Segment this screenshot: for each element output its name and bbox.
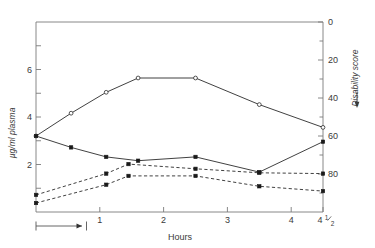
left-axis-title-group: µg/ml plasma (7, 107, 17, 158)
right-tick-label-0: 0 (328, 17, 333, 27)
x-tick-label-1: 1 (97, 215, 102, 225)
right-tick-label-60: 60 (328, 131, 338, 141)
x-tick-label-4half-whole: 4 (317, 215, 322, 225)
chart-background (0, 0, 375, 248)
x-tick-label-4half-numerator: 1 (325, 214, 329, 221)
right-axis-title-group: Disability score (350, 49, 360, 108)
left-axis-title: µg/ml plasma (7, 107, 17, 158)
left-tick-label-4: 4 (27, 112, 32, 122)
x-axis-title-group: Hours (168, 232, 193, 242)
right-tick-label-40: 40 (328, 93, 338, 103)
right-axis-title: Disability score (350, 49, 360, 106)
plasma-disability-chart: 2 4 6 µg/ml plasma 0 20 40 60 80 Disabil… (0, 0, 375, 248)
left-tick-label-6: 6 (27, 65, 32, 75)
x-axis-title: Hours (168, 232, 193, 242)
x-tick-label-3: 3 (225, 215, 230, 225)
right-tick-label-20: 20 (328, 55, 338, 65)
x-tick-label-2: 2 (161, 215, 166, 225)
x-tick-label-4: 4 (289, 215, 294, 225)
right-tick-label-80: 80 (328, 169, 338, 179)
x-tick-label-4half-denominator: 2 (331, 220, 335, 227)
left-tick-label-2: 2 (27, 160, 32, 170)
